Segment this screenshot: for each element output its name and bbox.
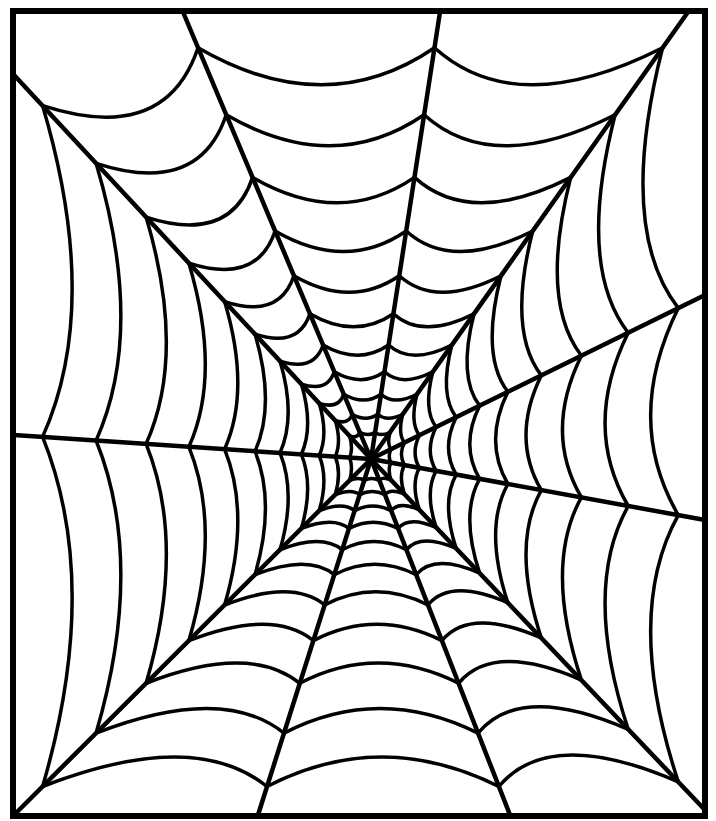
web-ring-segment bbox=[43, 48, 198, 117]
web-ring-segment bbox=[446, 345, 456, 417]
web-ring-segment bbox=[96, 708, 284, 733]
web-ring-segment bbox=[280, 453, 288, 550]
web-ring-segment bbox=[449, 417, 457, 474]
web-ring-segment bbox=[325, 592, 428, 605]
web-ring-segment bbox=[146, 444, 166, 683]
web-ring-segment bbox=[313, 624, 442, 640]
web-ring-segment bbox=[189, 231, 275, 270]
web-ring-segment bbox=[429, 372, 436, 427]
web-ring-segment bbox=[198, 48, 435, 85]
web-spoke bbox=[371, 12, 688, 459]
web-ring-segment bbox=[43, 757, 267, 786]
web-ring-segment bbox=[189, 624, 314, 640]
web-ring-segment bbox=[499, 755, 678, 787]
web-ring-segment bbox=[301, 384, 307, 454]
web-ring-segment bbox=[323, 345, 389, 355]
web-ring-segment bbox=[226, 115, 424, 146]
web-ring-segment bbox=[225, 449, 238, 605]
web-ring-segment bbox=[319, 394, 344, 405]
web-ring-segment bbox=[643, 48, 678, 308]
web-ring-segment bbox=[255, 314, 310, 339]
web-ring-segment bbox=[605, 506, 628, 729]
web-ring-segment bbox=[319, 456, 324, 511]
web-ring-segment bbox=[562, 356, 581, 498]
web-ring-segment bbox=[470, 479, 480, 573]
web-ring-segment bbox=[430, 427, 436, 471]
web-ring-segment bbox=[651, 515, 679, 782]
web-ring-segment bbox=[599, 115, 629, 333]
spider-web-illustration bbox=[0, 0, 716, 821]
web-ring-segment bbox=[301, 372, 334, 387]
web-ring-segment bbox=[467, 314, 480, 406]
web-hub bbox=[366, 454, 376, 464]
web-ring-segment bbox=[459, 662, 582, 684]
web-ring-segment bbox=[146, 217, 166, 444]
web-ring-segment bbox=[526, 375, 541, 490]
web-ring-segment bbox=[43, 437, 73, 787]
web-ring-segment bbox=[255, 451, 265, 575]
web-ring-segment bbox=[360, 491, 385, 494]
web-ring-segment bbox=[225, 302, 238, 450]
web-ring-segment bbox=[96, 441, 121, 734]
web-ring-segment bbox=[393, 314, 474, 327]
web-spoke bbox=[14, 75, 371, 459]
web-ring-segment bbox=[96, 115, 226, 173]
web-ring-segment bbox=[415, 435, 419, 468]
web-ring-segment bbox=[496, 484, 508, 603]
web-ring-segment bbox=[349, 522, 398, 528]
web-ring-segment bbox=[96, 163, 121, 440]
web-ring-segment bbox=[526, 490, 541, 638]
web-ring-segment bbox=[284, 708, 478, 733]
web-ring-segment bbox=[399, 276, 501, 293]
web-ring-segment bbox=[424, 115, 615, 146]
web-ring-segment bbox=[43, 106, 73, 437]
web-ring-segment bbox=[334, 564, 416, 574]
web-ring-segment bbox=[492, 276, 508, 392]
web-spoke bbox=[371, 459, 510, 815]
web-ring-segment bbox=[319, 403, 324, 455]
web-ring-segment bbox=[253, 177, 415, 202]
web-ring-segment bbox=[310, 314, 394, 327]
web-ring-segment bbox=[355, 506, 392, 511]
web-ring-segment bbox=[342, 542, 406, 550]
web-ring-segment bbox=[146, 177, 253, 225]
web-ring-segment bbox=[300, 663, 459, 683]
web-spokes bbox=[14, 12, 705, 815]
web-ring-segment bbox=[280, 345, 323, 364]
web-ring-segment bbox=[406, 231, 533, 252]
web-ring-segment bbox=[651, 308, 679, 515]
web-ring-segment bbox=[225, 276, 294, 307]
web-ring-segment bbox=[415, 177, 571, 202]
web-ring-segment bbox=[557, 177, 581, 355]
web-ring-segment bbox=[522, 231, 542, 375]
web-ring-segment bbox=[478, 707, 628, 733]
web-ring-segment bbox=[435, 48, 663, 85]
web-ring-segment bbox=[334, 372, 384, 380]
web-ring-segment bbox=[605, 333, 628, 506]
web-ring-segment bbox=[344, 394, 381, 400]
web-ring-segment bbox=[496, 392, 508, 484]
web-ring-segment bbox=[301, 454, 307, 528]
web-ring-segment bbox=[442, 623, 541, 641]
web-ring-segment bbox=[294, 276, 399, 293]
web-ring-segment bbox=[562, 497, 581, 680]
web-ring-segment bbox=[389, 345, 452, 355]
web-ring-segment bbox=[189, 263, 205, 447]
web-ring-segment bbox=[449, 475, 457, 549]
web-ring-segment bbox=[225, 592, 325, 605]
web-ring-segment bbox=[267, 757, 499, 786]
web-ring-segment bbox=[280, 361, 288, 453]
web-ring-segment bbox=[146, 663, 300, 683]
web-ring-segment bbox=[470, 406, 480, 479]
web-ring-segment bbox=[275, 231, 406, 252]
web-ring-segment bbox=[189, 447, 205, 641]
web-ring-segment bbox=[255, 334, 265, 451]
